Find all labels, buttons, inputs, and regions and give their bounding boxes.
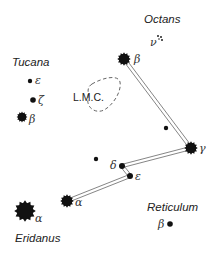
star-label: β <box>28 113 35 126</box>
star-label: α <box>35 212 43 225</box>
star-label: α <box>75 196 83 209</box>
constellation-label-eridanus: Eridanus <box>15 232 61 244</box>
star-eri-alpha: α <box>14 200 43 225</box>
star-label: ζ <box>38 94 45 107</box>
star-label: β <box>133 53 140 66</box>
constellation-line <box>123 58 193 149</box>
constellation-label-tucana: Tucana <box>12 56 50 68</box>
octans-nu-label: ν <box>150 36 157 49</box>
star-label: ε <box>35 74 41 87</box>
star-chart: L.M.C. εζββγδεααβ TucanaOctansReticulumE… <box>0 0 218 255</box>
star-label: ε <box>135 170 141 183</box>
star-tuc-zeta: ζ <box>30 94 45 107</box>
star-label: β <box>157 218 164 231</box>
star-field-star-2 <box>164 126 168 130</box>
constellation-label-reticulum: Reticulum <box>147 201 199 213</box>
star-ret-beta: β <box>157 218 173 231</box>
star-tuc-epsilon: ε <box>28 74 41 87</box>
constellation-label-octans: Octans <box>144 13 181 25</box>
star-hyi-gamma: γ <box>184 141 206 155</box>
constellation-line <box>122 146 192 167</box>
hydrus-constellation-lines <box>66 58 192 202</box>
lmc-label: L.M.C. <box>73 91 104 103</box>
star-field-star-1 <box>94 157 98 161</box>
star-tuc-beta: β <box>17 112 36 126</box>
star-hyi-alpha: α <box>60 194 83 209</box>
constellation-labels: TucanaOctansReticulumEridanus <box>12 13 199 244</box>
star-hyi-beta: β <box>117 52 140 66</box>
star-label: δ <box>110 159 117 172</box>
star-label: γ <box>199 142 206 155</box>
octans-nu-star: ν <box>150 35 163 49</box>
